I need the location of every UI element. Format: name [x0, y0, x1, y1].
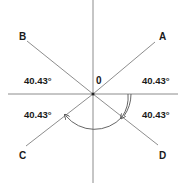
point-label-a: A: [159, 31, 166, 42]
center-label: 0: [96, 75, 102, 86]
angle-diagram: A B C D 0 40.43° 40.43° 40.43° 40.43°: [0, 0, 186, 183]
angle-label-upper-left: 40.43°: [24, 75, 52, 86]
double-arc-inner: [122, 94, 128, 117]
angle-label-lower-left: 40.43°: [24, 109, 52, 120]
line-oa: [93, 42, 155, 94]
line-ob: [27, 41, 93, 94]
point-label-c: C: [19, 150, 26, 161]
arc-d-to-c: [66, 116, 122, 129]
angle-label-lower-right: 40.43°: [142, 109, 170, 120]
center-point: [92, 93, 95, 96]
point-label-b: B: [19, 31, 26, 42]
angle-label-upper-right: 40.43°: [142, 75, 170, 86]
point-label-d: D: [159, 150, 166, 161]
line-oc: [26, 94, 93, 146]
